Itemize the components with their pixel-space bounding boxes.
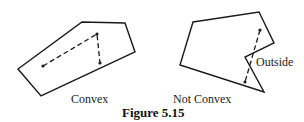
convex-dashed-segment bbox=[43, 34, 100, 66]
not-convex-panel bbox=[180, 12, 274, 92]
convex-panel bbox=[18, 22, 135, 96]
not-convex-point-a bbox=[258, 28, 261, 31]
outside-annotation: Outside bbox=[256, 56, 293, 68]
not-convex-polygon bbox=[180, 12, 274, 92]
figure-caption: Figure 5.15 bbox=[122, 106, 185, 119]
convex-point-a bbox=[41, 64, 44, 67]
convex-point-b bbox=[95, 32, 98, 35]
convex-label: Convex bbox=[71, 93, 108, 105]
convex-point-c bbox=[98, 61, 101, 64]
not-convex-point-b bbox=[243, 80, 246, 83]
not-convex-label: Not Convex bbox=[173, 93, 231, 105]
convex-polygon bbox=[18, 22, 135, 96]
